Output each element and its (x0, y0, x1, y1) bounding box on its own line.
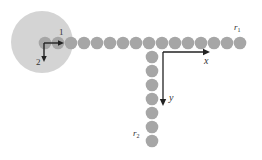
bead (65, 37, 78, 50)
arrowhead-icon (160, 99, 166, 106)
bead (130, 37, 143, 50)
bead (91, 37, 104, 50)
vertical-bead-chain-r2 (146, 51, 159, 148)
bead (146, 135, 159, 148)
bead (146, 65, 159, 78)
y-axis-label: y (168, 92, 174, 103)
local-axis-2-label: 2 (36, 57, 41, 67)
bead (104, 37, 117, 50)
local-axis-1-label: 1 (59, 27, 64, 37)
horizontal-bead-chain-r1 (39, 37, 247, 50)
bead (156, 37, 169, 50)
x-axis-label: x (203, 55, 209, 66)
r2-label: r2 (133, 128, 140, 139)
bead (146, 51, 159, 64)
r1-label: r1 (234, 22, 241, 33)
bead (169, 37, 182, 50)
bead (182, 37, 195, 50)
bead-chain-diagram: 1 2 x y r1 r2 (0, 0, 262, 160)
bead (208, 37, 221, 50)
bead (146, 93, 159, 106)
bead (221, 37, 234, 50)
bead (146, 107, 159, 120)
bead (146, 121, 159, 134)
bead (78, 37, 91, 50)
global-axes: x y (160, 49, 210, 106)
bead (146, 79, 159, 92)
bead (117, 37, 130, 50)
bead (234, 37, 247, 50)
bead (143, 37, 156, 50)
bead (195, 37, 208, 50)
